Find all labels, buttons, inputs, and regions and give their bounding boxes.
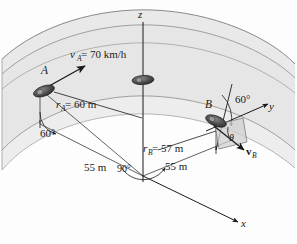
mechanics-diagram: z y x A B v A = 70 km/h r A = 60 m r B =… [0, 0, 297, 244]
angle-a-label: 60° [40, 127, 55, 139]
x-axis [143, 176, 238, 222]
dim-left-label: 55 m [84, 161, 107, 173]
point-label-b: B [205, 98, 212, 110]
angle-origin-label: 90° [117, 163, 131, 174]
point-label-a: A [40, 64, 49, 76]
dim-right-label: 55 m [165, 160, 188, 172]
figure-container: z y x A B v A = 70 km/h r A = 60 m r B =… [0, 0, 297, 244]
rb-label-group: r B = 57 m [143, 142, 184, 157]
ra-value: = 60 m [65, 98, 97, 110]
rb-value: = 57 m [152, 142, 184, 154]
theta-label: θ [229, 132, 234, 143]
axis-label-y: y [268, 100, 274, 112]
axis-label-z: z [137, 8, 143, 20]
va-value: = 70 km/h [81, 48, 127, 60]
angle-b-label: 60° [235, 93, 250, 105]
vb-label-group: v B [246, 145, 257, 160]
va-label: v [70, 48, 75, 60]
axis-label-x: x [240, 217, 246, 229]
vb-label-sub: B [252, 151, 257, 160]
